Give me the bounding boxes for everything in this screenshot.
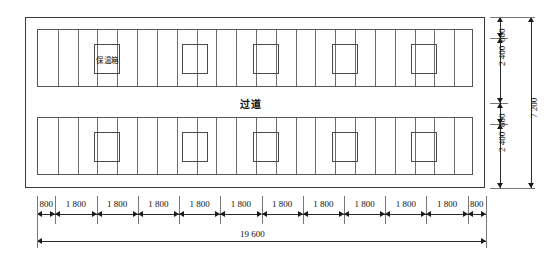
dimension-value: 1 800 [344,199,385,209]
dimension-line-segment [344,214,385,215]
band-divider-line [236,30,237,86]
storage-box [94,132,120,162]
band-divider-line [78,118,79,174]
storage-box [411,44,437,74]
band-divider-line [157,30,158,86]
dimension-arrow [303,211,308,217]
overall-width-dimension-line [37,241,486,242]
band-divider-line [375,118,376,174]
dimension-value: 1 800 [385,199,426,209]
storage-box [253,44,279,74]
dimension-value: 1 800 [426,199,467,209]
overall-height-ext-bottom [490,188,535,189]
band-divider-line [395,118,396,174]
aisle-label: 过道 [240,96,262,111]
dimension-line-segment [97,214,138,215]
band-divider-line [454,118,455,174]
band-divider-line [58,30,59,86]
band-divider-line [216,30,217,86]
dimension-arrow [55,211,60,217]
band-divider-line [137,118,138,174]
overall-width-ext-left [37,198,38,248]
storage-box [332,132,358,162]
dimension-value: 1 800 [262,199,303,209]
band-divider-line [236,118,237,174]
band-divider-line [177,118,178,174]
band-divider-line [395,30,396,86]
storage-box [253,132,279,162]
dimension-line-segment [220,214,261,215]
band-divider-line [137,30,138,86]
band-divider-line [315,30,316,86]
band-divider-line [454,30,455,86]
dimension-value: 800 [468,199,486,209]
dimension-line-segment [138,214,179,215]
storage-box [332,44,358,74]
dimension-value: 1 800 [303,199,344,209]
band-divider-line [296,30,297,86]
storage-box [182,132,208,162]
dimension-value: 800 [37,199,55,209]
upper-band: 保温箱 [37,29,473,87]
dimension-value: 1 800 [220,199,261,209]
dimension-value: 1 800 [55,199,96,209]
dimension-arrow [262,211,267,217]
overall-width-ext-right [486,198,487,248]
overall-width-label: 19 600 [240,229,265,239]
dimension-value: 2 400 [497,110,507,174]
dimension-arrow [97,211,102,217]
band-divider-line [78,30,79,86]
dimension-arrow [468,211,473,217]
band-divider-line [375,30,376,86]
dimension-arrow [497,103,503,108]
overall-height-ext-top [490,17,535,18]
dimension-line-segment [262,214,303,215]
dimension-value: 1 800 [97,199,138,209]
band-divider-line [216,118,217,174]
dimension-line-segment [303,214,344,215]
storage-box-label: 保温箱 [94,44,120,74]
storage-box [182,44,208,74]
dimension-arrow [385,211,390,217]
lower-band [37,117,473,175]
storage-box [411,132,437,162]
dimension-line-segment [385,214,426,215]
dimension-arrow [426,211,431,217]
overall-height-label: 7 200 [529,98,539,118]
dimension-value: 2 400 [497,24,507,88]
dimension-line-segment [179,214,220,215]
band-divider-line [315,118,316,174]
drawing-sheet: 保温箱 过道 8001 8001 8001 8001 8001 8001 800… [0,0,558,258]
dimension-value: 1 800 [138,199,179,209]
dimension-line-segment [55,214,96,215]
band-divider-line [157,118,158,174]
band-divider-line [296,118,297,174]
dimension-arrow [179,211,184,217]
dimension-arrow [344,211,349,217]
dimension-arrow [138,211,143,217]
band-divider-line [177,30,178,86]
dimension-arrow [220,211,225,217]
dimension-line-segment [426,214,467,215]
dimension-value: 1 800 [179,199,220,209]
band-divider-line [58,118,59,174]
